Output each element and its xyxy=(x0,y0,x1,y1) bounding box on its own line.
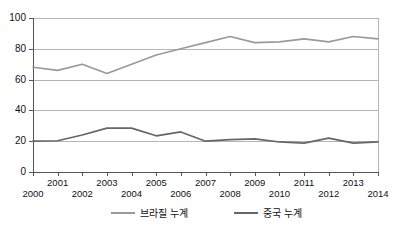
chart-plot-area xyxy=(0,0,413,229)
y-tick-label-100: 100 xyxy=(0,13,26,23)
y-tick-label-40: 40 xyxy=(0,105,26,115)
series-line-brazil xyxy=(33,36,378,73)
x-tick-label-2005: 2005 xyxy=(141,178,171,188)
x-tick-label-2007: 2007 xyxy=(191,178,221,188)
legend-item-label: 브라질 누계 xyxy=(140,208,188,219)
x-tick-label-2006: 2006 xyxy=(166,189,196,199)
y-tick-label-80: 80 xyxy=(0,44,26,54)
x-tick-label-2002: 2002 xyxy=(67,189,97,199)
x-tick-label-2010: 2010 xyxy=(264,189,294,199)
y-tick-label-0: 0 xyxy=(0,167,26,177)
line-chart: 020406080100 200020012002200320042005200… xyxy=(0,0,413,229)
x-tick-label-2000: 2000 xyxy=(18,189,48,199)
legend-line-swatch-icon xyxy=(111,212,135,214)
chart-legend: 브라질 누계중국 누계 xyxy=(0,202,413,224)
x-tick-label-2011: 2011 xyxy=(289,178,319,188)
x-tick-label-2004: 2004 xyxy=(117,189,147,199)
y-tick-label-20: 20 xyxy=(0,136,26,146)
x-tick-label-2009: 2009 xyxy=(240,178,270,188)
x-tick-label-2013: 2013 xyxy=(338,178,368,188)
x-tick-label-2003: 2003 xyxy=(92,178,122,188)
y-tick-label-60: 60 xyxy=(0,75,26,85)
legend-item-label: 중국 누계 xyxy=(263,208,302,219)
series-line-china xyxy=(33,128,378,143)
x-tick-label-2012: 2012 xyxy=(314,189,344,199)
x-tick-label-2008: 2008 xyxy=(215,189,245,199)
x-tick-label-2001: 2001 xyxy=(43,178,73,188)
legend-line-swatch-icon xyxy=(234,212,258,214)
legend-item-china[interactable]: 중국 누계 xyxy=(234,208,302,219)
legend-item-brazil[interactable]: 브라질 누계 xyxy=(111,208,188,219)
x-tick-label-2014: 2014 xyxy=(363,189,393,199)
